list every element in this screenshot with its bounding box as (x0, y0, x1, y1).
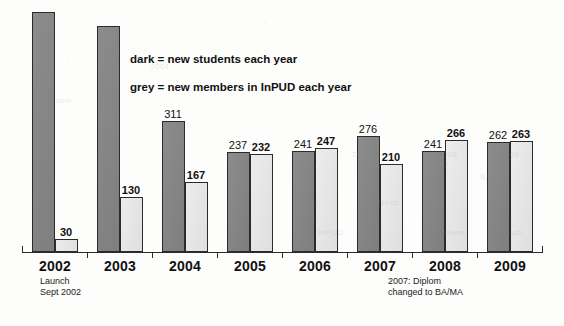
bar-group-2002: 30 (32, 8, 78, 252)
bar-shading (293, 152, 314, 251)
bar-dark-2005: 237 (227, 152, 250, 252)
bar-shading (423, 152, 444, 251)
bar-grey-2004: 167 (185, 182, 208, 252)
bar-grey-2003: 130 (120, 197, 143, 252)
bar-shading (381, 165, 402, 251)
bar-group-2007: 276210 (357, 8, 403, 252)
bar-shading (121, 198, 142, 251)
value-label-grey-2005: 232 (252, 141, 270, 153)
value-label-dark-2008: 241 (424, 138, 442, 150)
axis-tick-8 (542, 246, 543, 253)
value-label-grey-2008: 266 (447, 127, 465, 139)
bar-dark-2009: 262 (487, 142, 510, 252)
bar-shading (98, 27, 119, 251)
value-label-dark-2007: 276 (359, 123, 377, 135)
bar-grey-2006: 247 (315, 148, 338, 252)
year-label-2006: 2006 (299, 258, 331, 274)
year-label-2007: 2007 (364, 258, 396, 274)
annotation-diplom: 2007: Diplom changed to BA/MA (388, 276, 463, 298)
bar-grey-2005: 232 (250, 154, 273, 252)
chart-legend: dark = new students each year grey = new… (130, 38, 351, 108)
bar-shading (316, 149, 337, 251)
bar-grey-2009: 263 (510, 141, 533, 252)
bar-shading (251, 155, 272, 251)
year-label-2003: 2003 (104, 258, 136, 274)
bar-dark-2003 (97, 26, 120, 252)
year-label-2008: 2008 (429, 258, 461, 274)
axis-tick-5 (347, 252, 348, 258)
year-label-2004: 2004 (169, 258, 201, 274)
bar-dark-2004: 311 (162, 121, 185, 252)
bar-shading (358, 137, 379, 251)
value-label-grey-2009: 263 (512, 128, 530, 140)
value-label-grey-2003: 130 (122, 184, 140, 196)
value-label-dark-2009: 262 (489, 129, 507, 141)
bar-group-2008: 241266 (422, 8, 468, 252)
bar-grey-2008: 266 (445, 140, 468, 252)
bar-group-2009: 262263 (487, 8, 533, 252)
value-label-dark-2005: 237 (229, 139, 247, 151)
bar-shading (33, 13, 54, 251)
annotation-launch: Launch Sept 2002 (40, 276, 81, 298)
value-label-grey-2004: 167 (187, 169, 205, 181)
bar-shading (56, 240, 77, 251)
axis-tick-7 (477, 252, 478, 258)
bar-dark-2007: 276 (357, 136, 380, 252)
bar-shading (228, 153, 249, 251)
bar-dark-2006: 241 (292, 151, 315, 252)
legend-line-dark: dark = new students each year (130, 52, 351, 66)
value-label-grey-2007: 210 (382, 151, 400, 163)
bar-grey-2002: 30 (55, 239, 78, 252)
bar-shading (488, 143, 509, 251)
axis-tick-0 (22, 246, 23, 253)
bar-shading (511, 142, 532, 251)
value-label-grey-2002: 30 (60, 226, 72, 238)
bar-grey-2007: 210 (380, 164, 403, 252)
bar-dark-2002 (32, 12, 55, 252)
axis-tick-3 (217, 252, 218, 258)
year-label-2005: 2005 (234, 258, 266, 274)
axis-tick-1 (87, 252, 88, 258)
bar-dark-2008: 241 (422, 151, 445, 252)
legend-line-grey: grey = new members in InPUD each year (130, 80, 351, 94)
axis-tick-6 (412, 252, 413, 258)
bar-shading (186, 183, 207, 251)
year-label-2009: 2009 (494, 258, 526, 274)
value-label-dark-2006: 241 (294, 138, 312, 150)
bar-shading (446, 141, 467, 251)
value-label-dark-2004: 311 (164, 108, 182, 120)
year-label-2002: 2002 (39, 258, 71, 274)
value-label-grey-2006: 247 (317, 135, 335, 147)
bar-shading (163, 122, 184, 251)
bar-chart: 2006200720082009DIPLANDBA/MA2002students… (0, 0, 564, 326)
axis-tick-4 (282, 252, 283, 258)
axis-tick-2 (152, 252, 153, 258)
